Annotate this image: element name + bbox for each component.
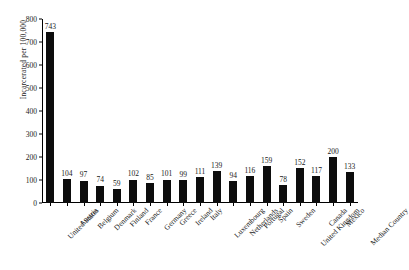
bar: [80, 181, 88, 203]
bar-value-label: 78: [279, 176, 287, 184]
bar-group: 133: [342, 19, 357, 203]
bar-value-label: 117: [311, 167, 322, 175]
bar-group: 200: [326, 19, 341, 203]
bar-group: 97: [76, 19, 91, 203]
bar: [229, 181, 237, 203]
bar-value-label: 159: [261, 157, 272, 165]
bar: [163, 180, 171, 203]
bar-group: 85: [143, 19, 158, 203]
bar-value-label: 111: [195, 168, 206, 176]
bar-value-label: 743: [45, 23, 56, 31]
plot-area: 0100200300400500600700800 74310497745910…: [42, 19, 358, 203]
bar: [46, 32, 54, 203]
bar: [129, 180, 137, 203]
bar-group: 99: [176, 19, 191, 203]
bar-value-label: 139: [211, 162, 222, 170]
bar-value-label: 116: [244, 167, 255, 175]
bar-value-label: 74: [96, 176, 104, 184]
bar: [329, 157, 337, 203]
bar-series: 7431049774591028510199111139941161597815…: [42, 19, 358, 203]
bar-group: 117: [309, 19, 324, 203]
bar: [346, 172, 354, 203]
bar-value-label: 97: [80, 171, 88, 179]
bar-group: 743: [43, 19, 58, 203]
bar: [296, 168, 304, 203]
bar-value-label: 85: [146, 174, 154, 182]
bar: [113, 189, 121, 203]
bar-value-label: 133: [344, 163, 355, 171]
bar: [263, 166, 271, 203]
x-axis-tick-label: Sweden: [294, 206, 317, 229]
bar: [312, 176, 320, 203]
bar: [279, 185, 287, 203]
bar-group: 139: [209, 19, 224, 203]
bar-group: 152: [293, 19, 308, 203]
bar: [179, 180, 187, 203]
bar-value-label: 99: [180, 171, 188, 179]
bar: [213, 171, 221, 203]
bar-value-label: 200: [327, 148, 338, 156]
bar: [146, 183, 154, 203]
bar-group: 101: [159, 19, 174, 203]
bar-group: 111: [193, 19, 208, 203]
bar-value-label: 59: [113, 180, 121, 188]
bar-group: 102: [126, 19, 141, 203]
bar: [196, 177, 204, 203]
bar: [96, 186, 104, 203]
bar: [63, 179, 71, 203]
bar-value-label: 94: [230, 172, 238, 180]
bar-value-label: 104: [61, 170, 72, 178]
bar-group: 59: [110, 19, 125, 203]
bar-group: 104: [60, 19, 75, 203]
bar-group: 116: [243, 19, 258, 203]
bar: [246, 176, 254, 203]
x-axis-labels: United StatesAustriaBelgiumDenmarkFinlan…: [42, 206, 358, 270]
bar-value-label: 101: [161, 170, 172, 178]
x-axis-tick-label: Median Country: [368, 206, 409, 247]
bar-group: 74: [93, 19, 108, 203]
bar-group: 94: [226, 19, 241, 203]
bar-group: 159: [259, 19, 274, 203]
bar-value-label: 152: [294, 159, 305, 167]
bar-group: 78: [276, 19, 291, 203]
bar-value-label: 102: [128, 170, 139, 178]
